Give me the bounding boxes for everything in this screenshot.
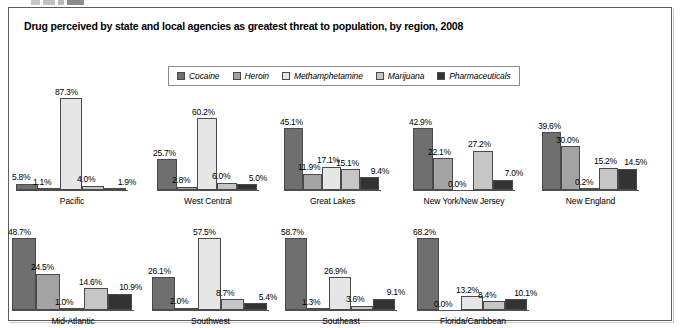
bar-value-label: 26.9% [324, 266, 347, 276]
cropped-figure-label [31, 0, 103, 5]
chart-group-west-central: 25.7%2.8%60.2%6.0%5.0%West Central [157, 96, 281, 206]
group-bars: 48.7%24.5%1.0%14.6%10.9% [12, 224, 132, 310]
group-baseline [542, 190, 639, 191]
bar-slot-pharmaceuticals: 5.4% [244, 224, 267, 310]
group-category-label: Pacific [16, 196, 128, 206]
bar-slot-marijuana: 27.2% [473, 114, 493, 190]
bar-value-label: 1.1% [33, 177, 51, 187]
bar-slot-marijuana: 15.2% [599, 118, 618, 190]
bar-methamphetamine [60, 308, 84, 310]
bar-slot-marijuana: 8.4% [483, 224, 505, 310]
group-baseline [16, 190, 128, 191]
bar-slot-marijuana: 15.1% [341, 114, 360, 190]
bar-value-label: 26.1% [148, 266, 171, 276]
bar-heroin [175, 308, 198, 311]
chart-group-florida-caribbean: 68.2%0.0%13.2%8.4%10.1%Florida/Caribbean [417, 222, 547, 326]
bar-value-label: 1.0% [55, 297, 73, 307]
group-bars: 58.7%1.3%26.9%3.6%9.1% [285, 224, 395, 310]
legend-swatch-pharmaceuticals [437, 72, 445, 80]
bar-slot-heroin: 2.8% [177, 104, 197, 190]
legend-item-label: Marijuana [388, 71, 424, 81]
bar-value-label: 0.2% [575, 177, 593, 187]
bar-slot-pharmaceuticals: 14.5% [618, 118, 637, 190]
bar-value-label: 1.3% [302, 297, 320, 307]
bar-value-label: 8.7% [216, 288, 234, 298]
bar-value-label: 68.2% [413, 227, 436, 237]
group-bars: 68.2%0.0%13.2%8.4%10.1% [417, 224, 527, 310]
legend-item-label: Pharmaceuticals [449, 71, 510, 81]
group-category-label: Southwest [152, 316, 269, 326]
group-category-label: New York/New Jersey [413, 196, 515, 206]
legend-item-cocaine: Cocaine [177, 71, 220, 81]
bar-pharmaceuticals [618, 169, 637, 190]
group-category-label: Florida/Caribbean [417, 316, 529, 326]
bar-value-label: 15.1% [336, 158, 359, 168]
bar-value-label: 39.6% [538, 121, 561, 131]
group-bars: 26.1%2.0%57.5%8.7%5.4% [152, 224, 267, 310]
chart-row-top: 5.8%1.1%87.3%4.0%1.9%Pacific25.7%2.8%60.… [0, 96, 694, 206]
bar-marijuana [341, 169, 360, 190]
bar-value-label: 87.3% [55, 87, 78, 97]
bar-value-label: 5.0% [249, 173, 267, 183]
page-title: Drug perceived by state and local agenci… [24, 20, 644, 32]
chart-group-southwest: 26.1%2.0%57.5%8.7%5.4%Southwest [152, 222, 278, 326]
legend-item-label: Cocaine [189, 71, 220, 81]
legend-item-heroin: Heroin [233, 71, 269, 81]
chart-row-bottom: 48.7%24.5%1.0%14.6%10.9%Mid-Atlantic26.1… [0, 222, 694, 326]
bar-slot-methamphetamine: 17.1% [322, 114, 341, 190]
legend-item-marijuana: Marijuana [376, 71, 424, 81]
group-bars: 42.9%22.1%0.0%27.2%7.0% [413, 114, 513, 190]
bar-value-label: 10.1% [514, 288, 537, 298]
bar-slot-pharmaceuticals: 9.4% [360, 114, 379, 190]
bar-slot-heroin: 11.9% [303, 114, 322, 190]
bar-pharmaceuticals [104, 188, 126, 190]
legend-item-methamphetamine: Methamphetamine [282, 71, 363, 81]
legend-swatch-heroin [233, 72, 241, 80]
bar-value-label: 15.2% [594, 156, 617, 166]
legend-item-label: Methamphetamine [294, 71, 363, 81]
bar-pharmaceuticals [237, 184, 257, 190]
bar-value-label: 1.9% [118, 177, 136, 187]
legend-swatch-marijuana [376, 72, 384, 80]
bar-marijuana [599, 168, 618, 190]
bar-pharmaceuticals [373, 299, 395, 310]
bar-value-label: 0.0% [434, 299, 452, 309]
bar-marijuana [483, 301, 505, 310]
group-baseline [413, 190, 515, 191]
bar-value-label: 2.0% [170, 296, 188, 306]
bar-heroin [303, 174, 322, 190]
chart-group-great-lakes: 45.1%11.9%17.1%15.1%9.4%Great Lakes [284, 96, 404, 206]
bar-value-label: 60.2% [192, 107, 215, 117]
bar-slot-marijuana: 14.6% [84, 224, 108, 310]
bar-marijuana [217, 183, 237, 190]
bar-value-label: 3.6% [346, 294, 364, 304]
bar-value-label: 8.4% [478, 290, 496, 300]
chart-group-mid-atlantic: 48.7%24.5%1.0%14.6%10.9%Mid-Atlantic [12, 222, 142, 326]
group-baseline [284, 190, 381, 191]
bar-slot-pharmaceuticals: 1.9% [104, 84, 126, 190]
bar-methamphetamine [580, 188, 599, 190]
bar-cocaine [284, 128, 303, 190]
chart-legend: CocaineHeroinMethamphetamineMarijuanaPha… [168, 66, 520, 86]
bar-slot-pharmaceuticals: 9.1% [373, 224, 395, 310]
bar-marijuana [473, 151, 493, 190]
group-baseline [12, 310, 134, 311]
bar-slot-pharmaceuticals: 7.0% [493, 114, 513, 190]
group-baseline [152, 310, 269, 311]
bar-cocaine [12, 238, 36, 310]
group-bars: 45.1%11.9%17.1%15.1%9.4% [284, 114, 379, 190]
bar-pharmaceuticals [244, 303, 267, 310]
bar-value-label: 27.2% [468, 139, 491, 149]
chart-group-new-england: 39.6%30.0%0.2%15.2%14.5%New England [542, 96, 662, 206]
bar-marijuana [351, 306, 373, 310]
legend-item-label: Heroin [245, 71, 269, 81]
chart-group-new-york-new-jersey: 42.9%22.1%0.0%27.2%7.0%New York/New Jers… [413, 96, 545, 206]
bar-slot-methamphetamine: 0.0% [453, 114, 473, 190]
bar-value-label: 25.7% [153, 148, 176, 158]
bar-pharmaceuticals [493, 180, 513, 190]
bar-slot-methamphetamine: 1.0% [60, 224, 84, 310]
bar-pharmaceuticals [360, 177, 379, 190]
group-category-label: Great Lakes [284, 196, 381, 206]
bar-slot-pharmaceuticals: 10.1% [505, 224, 527, 310]
bar-slot-heroin: 2.0% [175, 224, 198, 310]
